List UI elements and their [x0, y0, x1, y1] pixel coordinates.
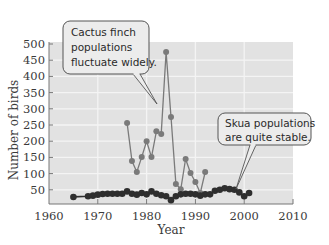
finch-tail-cover — [134, 73, 140, 76]
data-point — [124, 120, 130, 126]
data-point — [183, 156, 189, 162]
x-axis-title: Year — [157, 223, 185, 237]
y-tick-label: 200 — [23, 134, 45, 148]
x-tick-label: 2010 — [278, 209, 307, 223]
x-tick-label: 1970 — [83, 209, 112, 223]
data-point — [168, 114, 174, 120]
y-tick-label: 500 — [23, 37, 45, 51]
x-tick-label: 1980 — [132, 209, 161, 223]
skua-callout-line-2: are quite stable. — [225, 131, 311, 143]
data-point — [163, 49, 169, 55]
finch-callout-line-1: Cactus finch — [71, 26, 136, 38]
x-tick-label: 1960 — [34, 209, 63, 223]
finch-callout-line-2: populations — [71, 41, 132, 53]
y-tick-label: 400 — [23, 69, 45, 83]
x-tick-label: 2000 — [230, 209, 259, 223]
y-tick-label: 300 — [23, 102, 45, 116]
y-tick-label: 250 — [23, 118, 45, 132]
y-tick-label: 50 — [30, 183, 45, 197]
y-tick-label: 350 — [23, 86, 45, 100]
y-axis-title: Number of birds — [7, 80, 21, 181]
data-point — [129, 158, 135, 164]
data-point — [173, 181, 179, 187]
data-point — [158, 131, 164, 137]
y-tick-label: 100 — [23, 167, 45, 181]
data-point — [246, 190, 253, 197]
data-point — [144, 138, 150, 144]
population-chart: 50100150200250300350400450500 1960197019… — [0, 0, 329, 245]
x-tick-label: 1990 — [181, 209, 210, 223]
data-point — [192, 179, 198, 185]
data-point — [188, 170, 194, 176]
data-point — [148, 154, 154, 160]
finch-callout-line-3: fluctuate widely. — [71, 56, 157, 68]
data-point — [202, 169, 208, 175]
y-tick-label: 150 — [23, 150, 45, 164]
skua-callout-line-1: Skua populations — [225, 117, 315, 129]
data-point — [70, 194, 77, 201]
data-point — [134, 169, 140, 175]
skua-tail-cover — [251, 144, 256, 147]
data-point — [139, 154, 145, 160]
y-tick-label: 450 — [23, 53, 45, 67]
